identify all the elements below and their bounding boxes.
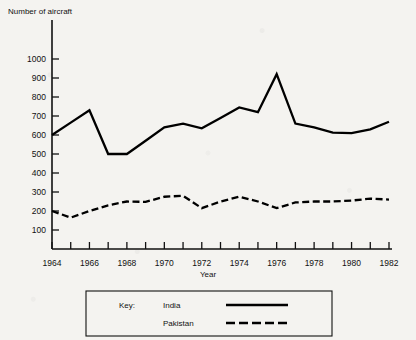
y-tick-label: 800 (32, 92, 46, 102)
y-tick-label: 400 (32, 168, 46, 178)
chart-page: Number of aircraft 100200300400500600700… (0, 0, 416, 340)
legend-entry-label-pakistan: Pakistan (163, 319, 194, 328)
y-tick-label: 700 (32, 111, 46, 121)
x-tick-label: 1970 (155, 258, 174, 268)
y-tick-label: 300 (32, 187, 46, 197)
x-tick-label: 1972 (192, 258, 211, 268)
x-tick-label: 1980 (342, 258, 361, 268)
x-axis-title: Year (200, 270, 217, 279)
x-tick-label: 1966 (80, 258, 99, 268)
y-axis-ticks: 1002003004005006007008009001000 (27, 54, 59, 235)
x-tick-label: 1982 (380, 258, 399, 268)
x-tick-label: 1974 (230, 258, 249, 268)
line-chart: Number of aircraft 100200300400500600700… (0, 0, 416, 340)
legend-box (86, 291, 332, 336)
series-line-pakistan (52, 196, 389, 218)
x-tick-label: 1968 (117, 258, 136, 268)
legend-entry-label-india: India (163, 301, 181, 310)
y-tick-label: 200 (32, 206, 46, 216)
x-tick-label: 1978 (305, 258, 324, 268)
y-tick-label: 900 (32, 73, 46, 83)
x-tick-label: 1976 (267, 258, 286, 268)
y-tick-label: 500 (32, 149, 46, 159)
y-axis-title: Number of aircraft (8, 7, 73, 16)
y-tick-label: 1000 (27, 54, 46, 64)
y-tick-label: 600 (32, 130, 46, 140)
series-line-india (52, 74, 389, 154)
y-tick-label: 100 (32, 225, 46, 235)
series-group (52, 74, 389, 217)
x-tick-label: 1964 (43, 258, 62, 268)
x-axis-ticks: 1964196619681970197219741976197819801982 (43, 242, 399, 268)
legend-title: Key: (119, 301, 135, 310)
